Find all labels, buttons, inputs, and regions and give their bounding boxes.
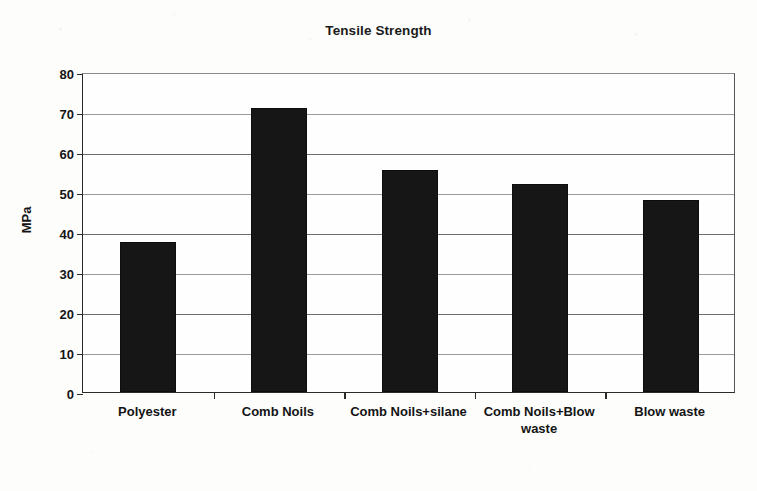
x-category-label: Blow waste [604,403,735,420]
bar [251,108,307,392]
y-tick [77,354,83,355]
y-tick-label: 0 [67,387,74,402]
y-tick-label: 10 [60,347,74,362]
chart-title: Tensile Strength [0,23,757,38]
y-tick [77,74,83,75]
x-tick [475,392,476,399]
x-category-label: Comb Noils [213,403,344,420]
gridline [83,114,734,115]
y-tick [77,234,83,235]
y-tick [77,314,83,315]
bar [382,170,438,392]
y-tick [77,394,83,395]
y-tick-label: 30 [60,267,74,282]
y-tick-label: 20 [60,307,74,322]
x-tick [214,392,215,399]
plot-area: 01020304050607080 [82,73,735,393]
x-category-label: Polyester [82,403,213,420]
bar [120,242,176,392]
y-tick-label: 80 [60,67,74,82]
y-tick [77,194,83,195]
y-tick-label: 60 [60,147,74,162]
y-tick-label: 70 [60,107,74,122]
bar [512,184,568,392]
y-tick [77,274,83,275]
y-tick-label: 40 [60,227,74,242]
x-category-label: Comb Noils+silane [343,403,474,420]
gridline [83,154,734,155]
y-tick-label: 50 [60,187,74,202]
y-tick [77,154,83,155]
x-tick [344,392,345,399]
y-tick [77,114,83,115]
chart-page: Tensile Strength MPa 01020304050607080 P… [0,0,757,491]
bar [643,200,699,392]
y-axis-title: MPa [19,207,34,234]
x-tick [605,392,606,399]
x-category-label: Comb Noils+Blow waste [474,403,605,437]
